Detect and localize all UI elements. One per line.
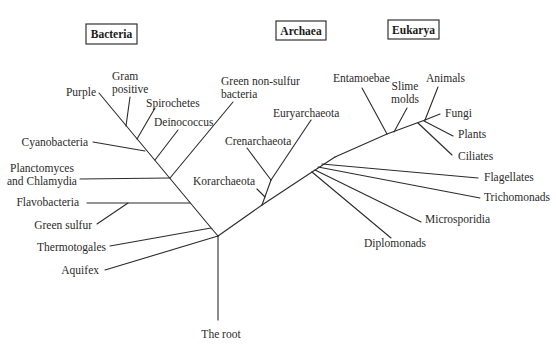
taxon-label-planctomyces: Planctomyces [10, 162, 74, 175]
root-label: The root [201, 328, 241, 340]
taxon-label-molds: molds [391, 93, 420, 105]
taxon-label-animals: Animals [426, 72, 465, 84]
branch-planctomyces [80, 178, 170, 179]
branch-diplomonads [312, 172, 391, 238]
domain-header-archaea: Archaea [276, 21, 326, 40]
taxon-label-deinococcus: Deinococcus [154, 116, 214, 128]
eukarya-trunk-4 [387, 120, 425, 134]
branch-flagellates [322, 164, 478, 178]
domain-label-archaea: Archaea [280, 25, 322, 37]
branch-entamoebae [362, 88, 387, 134]
taxon-label-euryarchaeota: Euryarchaeota [273, 107, 339, 120]
taxon-label-plants: Plants [458, 128, 487, 140]
branch-aquifex [105, 236, 218, 270]
taxon-label-korarchaeota: Korarchaeota [193, 175, 255, 187]
taxon-label-green-non-sulfur: Green non-sulfur [221, 75, 300, 87]
branch-spirochetes [137, 108, 155, 139]
bacteria-backbone [99, 93, 212, 229]
eukarya-trunk-3 [335, 134, 387, 157]
branch-green-non-sulfur [170, 102, 233, 178]
branch-thermotogales [110, 228, 211, 246]
taxon-label-green-sulfur: Green sulfur [34, 219, 92, 231]
taxon-label-crenarchaeota: Crenarchaeota [225, 135, 291, 147]
branch-cyanobacteria [93, 142, 145, 151]
branch-microsporidia [315, 170, 421, 222]
branch-gram-positive [126, 97, 130, 126]
tree-of-life-diagram: Bacteria Archaea Eukarya The root [0, 0, 556, 348]
archaea-stem [262, 180, 271, 205]
taxon-label-aquifex: Aquifex [61, 264, 99, 277]
branch-korarchaeota [257, 189, 265, 197]
eukarya-trunk-1 [262, 172, 312, 205]
taxon-label-positive: positive [112, 83, 148, 96]
taxon-label-ciliates: Ciliates [458, 150, 494, 162]
archaea-backbone [218, 205, 262, 236]
taxon-label-slime: Slime [392, 80, 419, 92]
bacteria-stem [212, 229, 218, 236]
taxon-label-flagellates: Flagellates [484, 171, 534, 184]
branch-deinococcus [155, 130, 178, 160]
phylogenetic-tree: Bacteria Archaea Eukarya The root [0, 0, 556, 348]
domain-header-bacteria: Bacteria [86, 24, 137, 44]
taxon-label-fungi: Fungi [445, 107, 472, 120]
branch-euryarchaeota [271, 120, 311, 180]
taxon-label-diplomonads: Diplomonads [364, 237, 426, 250]
branch-ciliates [418, 123, 452, 155]
taxon-label-chlamydia: and Chlamydia [7, 175, 77, 188]
domain-label-bacteria: Bacteria [91, 28, 133, 40]
taxon-label-entamoebae: Entamoebae [333, 72, 390, 84]
taxon-label-cyanobacteria: Cyanobacteria [22, 136, 88, 149]
branch-slime-molds [394, 108, 407, 132]
taxon-label-flavobacteria: Flavobacteria [16, 196, 79, 208]
taxon-label-thermotogales: Thermotogales [37, 241, 107, 254]
branch-plants [424, 121, 453, 136]
branch-trichomonads [318, 167, 480, 198]
taxon-label-purple: Purple [66, 86, 96, 99]
branch-green-sulfur [97, 203, 128, 224]
taxon-label-microsporidia: Microsporidia [425, 213, 490, 226]
domain-header-eukarya: Eukarya [388, 20, 439, 39]
taxon-label-trichomonads: Trichomonads [484, 191, 551, 203]
domain-label-eukarya: Eukarya [392, 24, 435, 37]
taxon-label-spirochetes: Spirochetes [146, 97, 200, 110]
taxon-label-bacteria-suffix: bacteria [221, 88, 257, 100]
taxon-label-gram: Gram [112, 70, 138, 82]
